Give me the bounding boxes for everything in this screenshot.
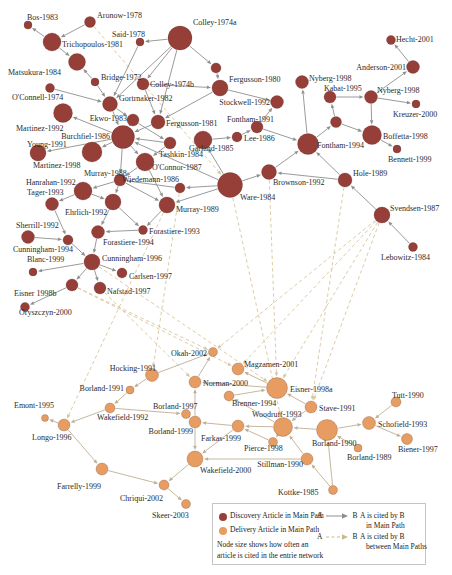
node-label-brown92: Brownson-1992 xyxy=(273,178,325,187)
edge-nyberg98b-kreuzer00 xyxy=(378,98,407,103)
node-label-fora93: Forastiere-1993 xyxy=(149,227,200,236)
node-label-farr99: Farrelly-1999 xyxy=(57,482,101,491)
node-mart98 xyxy=(82,142,102,162)
node-label-bos83: Bos-1983 xyxy=(27,13,58,22)
arrowhead-icon xyxy=(275,372,279,376)
arrowhead-icon xyxy=(202,421,206,425)
node-blanc99 xyxy=(29,268,37,276)
node-fora93 xyxy=(139,226,148,235)
arrowhead-icon xyxy=(47,149,51,153)
node-label-blanc99: Blanc-1999 xyxy=(27,255,64,264)
arrowhead-icon xyxy=(154,481,159,484)
node-label-wied86: Wiedemann-1986 xyxy=(122,175,179,184)
node-label-borl91: Borland-1991 xyxy=(80,384,124,393)
arrowhead-icon xyxy=(293,426,297,430)
node-label-norman00: Norman-2000 xyxy=(203,379,248,388)
node-label-tutt90: Tutt-1990 xyxy=(392,391,424,400)
edge-colley74a-j1 xyxy=(190,46,209,61)
node-label-wake92: Wakefield-1992 xyxy=(97,413,148,422)
node-magz01 xyxy=(232,363,244,375)
node-label-borl99: Borland-1999 xyxy=(149,427,193,436)
node-eisner98a xyxy=(267,378,288,399)
node-label-fontham91: Fontham-1991 xyxy=(227,115,274,124)
node-label-farkas99: Farkas-1999 xyxy=(201,434,241,443)
arrowhead-icon xyxy=(101,92,105,96)
edge-brown92-fontham94 xyxy=(275,153,295,167)
edge-fontham94-nyberg98a xyxy=(303,94,307,133)
edge-bridge72-gort82 xyxy=(98,86,103,94)
node-label-trich81: Trichopoulos-1981 xyxy=(62,40,123,49)
arrowhead-icon xyxy=(301,89,305,93)
edge-brown92-eisner98a xyxy=(269,180,276,372)
arrowhead-icon xyxy=(186,186,190,190)
node-label-nyberg98a: Nyberg-1998 xyxy=(309,74,352,83)
edge-still90-wood93 xyxy=(292,439,303,454)
arrowhead-icon xyxy=(32,28,36,32)
edge-colley74a-colley74b xyxy=(150,48,172,76)
node-mart92 xyxy=(54,104,73,123)
node-label-longo96: Longo-1996 xyxy=(32,433,72,442)
node-label-hanra92: Hanrahan-1992 xyxy=(26,178,76,187)
node-label-gort82: Gortrnaker-1982 xyxy=(119,94,173,103)
node-svend87 xyxy=(374,207,390,223)
node-label-colley74b: Colley-1974b xyxy=(150,80,194,89)
edge-hole89-stave91 xyxy=(313,187,344,396)
node-fontham94 xyxy=(298,134,319,155)
node-bos83 xyxy=(24,21,32,29)
node-nyberg98b xyxy=(365,91,378,104)
edge-borl91-wake92 xyxy=(118,393,127,401)
arrowhead-icon xyxy=(159,110,162,115)
node-label-bennett99: Bennett-1999 xyxy=(388,155,432,164)
edge-stave91-eisner98a xyxy=(291,396,306,404)
node-label-tager93: Tager-1993 xyxy=(27,188,64,197)
edge-said78-gort82 xyxy=(116,46,139,93)
node-label-hole89: Hole-1989 xyxy=(353,169,387,178)
legend-size-note-line2: article is cited in the entrie network xyxy=(217,551,323,560)
arrowhead-icon xyxy=(261,389,265,393)
node-j1 xyxy=(211,63,221,73)
node-label-burch86: Burchfiel-1986 xyxy=(61,132,110,141)
edge-sherrill92-cunn94 xyxy=(35,238,58,240)
arrowhead-icon xyxy=(115,189,118,194)
node-borl90 xyxy=(317,420,338,441)
node-label-pierce98: Pierce-1998 xyxy=(244,444,283,453)
edge-murray88-ehrlich92 xyxy=(117,186,118,189)
arrowhead-icon xyxy=(245,424,249,428)
node-norman00 xyxy=(189,376,201,388)
edge-colley74a-said78 xyxy=(149,39,167,41)
node-label-boff98: Boffetta-1998 xyxy=(383,132,428,141)
edge-aronow78-trich81 xyxy=(65,25,85,36)
arrowhead-icon xyxy=(294,151,298,155)
arrowhead-icon xyxy=(105,230,109,234)
node-label-emont95: Emont-1995 xyxy=(14,401,54,410)
node-biener97 xyxy=(402,434,413,445)
edge-gort82-ekwo83 xyxy=(117,109,124,114)
arrowhead-icon xyxy=(176,411,180,415)
edge-svend87-eisner98a xyxy=(285,222,377,374)
edge-anders01-hecht01 xyxy=(397,48,408,62)
solid-arrow-sample: A B xyxy=(317,511,357,520)
edge-bridge72-matsu84 xyxy=(86,72,92,78)
node-label-kreuzer00: Kreuzer-2000 xyxy=(393,110,437,119)
node-label-lebow84: Lebowitz-1984 xyxy=(381,253,430,262)
edge-cunn96-eisner98a xyxy=(99,267,264,379)
node-fora94 xyxy=(92,226,105,239)
node-label-svend87: Svendsen-1987 xyxy=(390,204,439,213)
node-label-orysz00: Oryszczyn-2000 xyxy=(19,308,72,317)
edge-farr99-chriqui02 xyxy=(108,471,154,483)
delivery-node-icon xyxy=(219,527,227,535)
node-said78 xyxy=(136,38,144,46)
edge-wake00-chriqui02 xyxy=(172,464,189,478)
arrowhead-icon xyxy=(145,39,149,43)
node-nafstad97 xyxy=(94,282,106,294)
node-label-magz01: Magzamen-2001 xyxy=(244,360,298,369)
node-label-stock92: Stockwell-1992 xyxy=(219,98,270,107)
edge-ehrlich92-fora93 xyxy=(119,208,136,224)
node-label-murray89: Murray-1989 xyxy=(176,205,219,214)
edge-nafstad97-norman00 xyxy=(105,293,187,375)
edge-borl90-wood93 xyxy=(298,428,316,429)
solid-arrow-desc-line1: A is cited by B xyxy=(360,511,405,520)
edge-hanra92-ehrlich92 xyxy=(92,194,101,197)
node-label-okah02: Okah-2002 xyxy=(171,349,207,358)
arrowhead-icon xyxy=(370,120,374,124)
